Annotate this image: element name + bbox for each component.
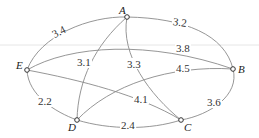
weight-B-C: 3.6 <box>207 96 221 108</box>
node-label-A: A <box>118 4 126 16</box>
node-E <box>25 68 30 73</box>
weight-E-A: 3.4 <box>50 23 68 40</box>
weight-E-C: 4.1 <box>134 93 148 105</box>
edge-B-C <box>181 69 234 120</box>
weight-A-B: 3.2 <box>172 15 187 29</box>
edge-weight-labels: 3.4 3.2 3.8 3.1 3.3 4.5 4.1 2.2 2.4 3.6 <box>37 15 222 131</box>
node-C <box>179 118 184 123</box>
node-label-B: B <box>238 63 245 75</box>
graph-diagram: 3.4 3.2 3.8 3.1 3.3 4.5 4.1 2.2 2.4 3.6 … <box>0 0 259 138</box>
weight-D-B: 4.5 <box>176 62 190 74</box>
weight-A-C: 3.3 <box>127 58 141 70</box>
edge-E-D <box>27 70 77 120</box>
weight-E-B: 3.8 <box>176 42 190 54</box>
node-label-D: D <box>67 121 76 133</box>
node-label-C: C <box>184 121 192 133</box>
weight-E-D: 2.2 <box>38 95 52 107</box>
weight-A-D: 3.1 <box>77 56 91 68</box>
node-label-E: E <box>15 59 23 71</box>
node-B <box>231 67 236 72</box>
weight-D-C: 2.4 <box>121 119 135 131</box>
edge-A-D <box>77 17 127 120</box>
